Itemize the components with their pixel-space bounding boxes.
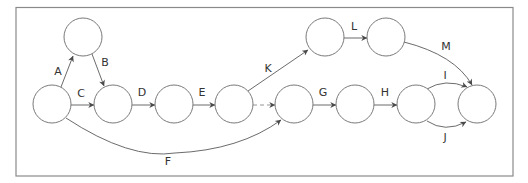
edge-a xyxy=(61,56,73,87)
node-6 xyxy=(275,85,313,123)
label-l: L xyxy=(351,20,358,33)
edge-j xyxy=(427,121,466,127)
label-j: J xyxy=(442,131,446,144)
label-g: G xyxy=(319,86,328,99)
node-3 xyxy=(94,85,132,123)
node-8 xyxy=(397,85,435,123)
label-m: M xyxy=(441,40,451,53)
label-h: H xyxy=(381,86,389,99)
edge-m xyxy=(404,42,472,85)
label-c: C xyxy=(77,87,85,100)
label-a: A xyxy=(54,65,62,78)
label-e: E xyxy=(199,86,206,99)
node-2 xyxy=(64,18,102,56)
network-diagram: A B C D E F G H I J K L M xyxy=(0,0,528,183)
node-1-start xyxy=(33,85,71,123)
node-10 xyxy=(306,18,344,56)
label-d: D xyxy=(138,86,146,99)
label-k: K xyxy=(264,62,272,75)
edge-k xyxy=(248,50,308,91)
node-11 xyxy=(367,18,405,56)
node-7 xyxy=(336,85,374,123)
node-9-end xyxy=(458,85,496,123)
label-b: B xyxy=(101,56,109,69)
node-5 xyxy=(215,85,253,123)
node-4 xyxy=(155,85,193,123)
edge-i xyxy=(427,83,467,89)
label-f: F xyxy=(165,155,171,168)
label-i: I xyxy=(443,69,446,82)
